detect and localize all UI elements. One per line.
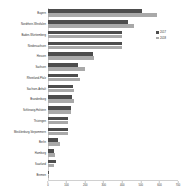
- x-tick-label: 700: [176, 184, 180, 187]
- bar-2018-Sachsen-Anhalt: [48, 89, 74, 93]
- x-tick-mark: [48, 181, 49, 183]
- x-tick-mark: [85, 181, 86, 183]
- bar-2018-Bremen: [48, 175, 49, 179]
- bar-2018-Rheinland-Pfalz: [48, 78, 80, 82]
- x-axis-ticks: 0100200300400500600700: [48, 181, 178, 193]
- category-label: Thüringen: [34, 119, 46, 122]
- category-label: Niedersachsen: [28, 44, 46, 47]
- bar-2018-Niedersachsen: [48, 46, 122, 50]
- x-tick-label: 0: [47, 184, 49, 187]
- bar-row: Niedersachsen: [48, 40, 178, 51]
- bar-chart: BayernNordrhein-WestfalenBaden-Württembe…: [0, 0, 183, 196]
- x-tick: 500: [139, 181, 143, 187]
- legend-swatch-icon: [156, 31, 159, 34]
- x-tick: 300: [101, 181, 105, 187]
- legend-item[interactable]: 2017: [156, 31, 166, 34]
- bar-row: Thüringen: [48, 116, 178, 127]
- bar-row: Bayern: [48, 8, 178, 19]
- bar-2018-Berlin: [48, 142, 60, 146]
- category-label: Bayern: [37, 12, 46, 15]
- bar-row: Sachsen-Anhalt: [48, 83, 178, 94]
- bar-2018-Hamburg: [48, 153, 55, 157]
- bar-2018-Mecklenburg-Vorpommern: [48, 132, 68, 136]
- x-tick-label: 100: [64, 184, 68, 187]
- x-tick-mark: [122, 181, 123, 183]
- legend-label: 2018: [160, 37, 166, 40]
- category-label: Hamburg: [35, 152, 46, 155]
- bar-row: Hessen: [48, 51, 178, 62]
- bar-row: Schleswig-Holstein: [48, 105, 178, 116]
- bar-row: Brandenburg: [48, 94, 178, 105]
- category-label: Saarland: [35, 162, 46, 165]
- category-label: Mecklenburg-Vorpommern: [14, 130, 46, 133]
- bar-2018-Schleswig-Holstein: [48, 110, 71, 114]
- legend-label: 2017: [160, 31, 166, 34]
- x-tick: 400: [120, 181, 124, 187]
- x-tick: 600: [157, 181, 161, 187]
- bar-2018-Hessen: [48, 56, 94, 60]
- category-label: Berlin: [39, 141, 46, 144]
- x-tick-mark: [66, 181, 67, 183]
- bar-2018-Bayern: [48, 13, 157, 17]
- category-label: Brandenburg: [30, 98, 46, 101]
- x-tick: 200: [83, 181, 87, 187]
- x-tick-label: 400: [120, 184, 124, 187]
- x-tick-mark: [177, 181, 178, 183]
- x-tick-mark: [140, 181, 141, 183]
- category-label: Baden-Württemberg: [21, 33, 46, 36]
- bar-2018-Nordrhein-Westfalen: [48, 24, 134, 28]
- x-tick-label: 200: [83, 184, 87, 187]
- x-tick: 100: [64, 181, 68, 187]
- x-tick-label: 500: [139, 184, 143, 187]
- bar-row: Berlin: [48, 137, 178, 148]
- bar-row: Hamburg: [48, 148, 178, 159]
- category-label: Schleswig-Holstein: [23, 109, 46, 112]
- bar-row: Bremen: [48, 169, 178, 180]
- x-tick-mark: [103, 181, 104, 183]
- category-label: Rheinland-Pfalz: [27, 76, 46, 79]
- x-tick: 700: [176, 181, 180, 187]
- x-tick: 0: [47, 181, 49, 187]
- bar-2018-Brandenburg: [48, 99, 74, 103]
- bar-2018-Thüringen: [48, 121, 68, 125]
- bar-row: Mecklenburg-Vorpommern: [48, 126, 178, 137]
- x-tick-label: 600: [157, 184, 161, 187]
- category-label: Hessen: [37, 55, 46, 58]
- legend-item[interactable]: 2018: [156, 37, 166, 40]
- x-tick-label: 300: [101, 184, 105, 187]
- bar-2018-Baden-Württemberg: [48, 35, 122, 39]
- chart-legend: 20172018: [156, 31, 166, 40]
- category-label: Bremen: [36, 173, 46, 176]
- bar-row: Saarland: [48, 159, 178, 170]
- category-label: Sachsen: [35, 66, 46, 69]
- category-label: Sachsen-Anhalt: [27, 87, 46, 90]
- bar-row: Nordrhein-Westfalen: [48, 19, 178, 30]
- bar-row: Sachsen: [48, 62, 178, 73]
- bar-row: Rheinland-Pfalz: [48, 73, 178, 84]
- x-tick-mark: [159, 181, 160, 183]
- category-label: Nordrhein-Westfalen: [21, 23, 46, 26]
- bar-2018-Saarland: [48, 164, 54, 168]
- bar-2018-Sachsen: [48, 67, 85, 71]
- legend-swatch-icon: [156, 37, 159, 40]
